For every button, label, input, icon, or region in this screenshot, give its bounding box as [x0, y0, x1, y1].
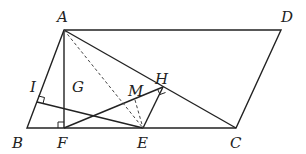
label-a: A [55, 8, 68, 26]
label-m: M [127, 82, 144, 100]
dashed-segment-me [135, 100, 143, 128]
label-g: G [72, 78, 84, 96]
segment-eh [143, 87, 163, 128]
label-c: C [230, 134, 242, 152]
geometry-figure: A D B C F E G I H M [0, 0, 306, 154]
segment-ie [37, 102, 143, 128]
label-f: F [56, 134, 68, 152]
label-h: H [154, 70, 169, 88]
label-b: B [11, 134, 23, 152]
parallelogram-abcd [27, 30, 281, 128]
right-angle-f-icon [58, 122, 64, 128]
label-d: D [280, 8, 293, 26]
label-e: E [136, 134, 148, 152]
label-i: I [29, 78, 37, 96]
